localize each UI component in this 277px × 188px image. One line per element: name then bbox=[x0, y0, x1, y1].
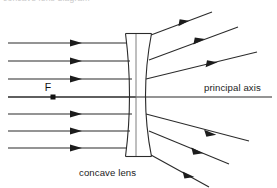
refracted-rays-group bbox=[146, 12, 257, 187]
clipped-heading-text: concave lens diagram bbox=[3, 0, 90, 3]
principal-axis-label: principal axis bbox=[204, 82, 261, 93]
arrow-head-incident-1 bbox=[70, 40, 82, 47]
arrow-head-refracted-3 bbox=[206, 60, 218, 67]
optics-diagram: concave lens diagram bbox=[0, 0, 277, 188]
arrow-head-refracted-1 bbox=[178, 19, 189, 26]
refracted-ray-5 bbox=[149, 131, 229, 164]
concave-lens-shape bbox=[126, 34, 152, 157]
lens-left-surface bbox=[126, 34, 130, 157]
refracted-ray-2 bbox=[149, 27, 238, 60]
concave-lens-ray-diagram-svg: F principal axis concave lens bbox=[0, 0, 277, 188]
refracted-ray-4 bbox=[146, 114, 249, 141]
focal-point-marker bbox=[51, 95, 56, 100]
refracted-ray-3 bbox=[146, 52, 257, 79]
focal-point-label: F bbox=[45, 81, 51, 93]
arrow-head-incident-3 bbox=[70, 76, 82, 83]
refracted-ray-6 bbox=[151, 155, 209, 187]
concave-lens-label: concave lens bbox=[79, 167, 136, 178]
arrow-head-refracted-2 bbox=[193, 37, 205, 44]
incident-arrowheads-group bbox=[70, 40, 82, 152]
arrow-head-incident-6 bbox=[70, 128, 82, 135]
arrow-head-incident-7 bbox=[70, 145, 82, 152]
arrow-head-incident-2 bbox=[70, 58, 82, 65]
refracted-arrowheads-group bbox=[178, 19, 217, 178]
lens-right-surface bbox=[146, 34, 152, 157]
arrow-head-incident-5 bbox=[70, 111, 82, 118]
arrow-head-refracted-5 bbox=[191, 148, 203, 155]
